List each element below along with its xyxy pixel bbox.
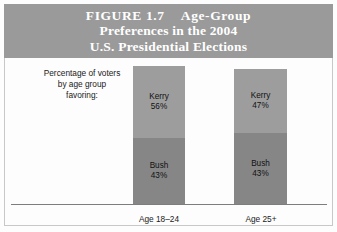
figure-title-banner: FIGURE 1.7 Age-Group Preferences in the … (4, 4, 333, 58)
figure-title-line-2: Preferences in the 2004 (100, 23, 238, 39)
figure-title-line-3: U.S. Presidential Elections (90, 39, 247, 55)
figure-title-line-1: FIGURE 1.7 Age-Group (86, 8, 251, 24)
figure-number: FIGURE 1.7 (86, 8, 165, 23)
figure-container: FIGURE 1.7 Age-Group Preferences in the … (0, 0, 337, 232)
caption-line-1: Percentage of voters (21, 68, 143, 79)
bar-segment-bush-25-plus: Bush 43% (234, 133, 287, 204)
chart-caption: Percentage of voters by age group favori… (21, 68, 143, 102)
segment-label-bush: Bush (150, 161, 169, 171)
x-axis-baseline (11, 204, 327, 205)
segment-value-kerry: 47% (252, 101, 268, 111)
bar-segment-bush-18-24: Bush 43% (133, 138, 185, 204)
bar-segment-kerry-18-24: Kerry 56% (133, 66, 185, 138)
segment-value-bush: 43% (151, 171, 167, 181)
plot-area: Percentage of voters by age group favori… (5, 58, 332, 226)
caption-line-3: favoring: (21, 90, 143, 101)
segment-label-kerry: Kerry (149, 92, 169, 102)
segment-value-bush: 43% (252, 169, 268, 179)
segment-label-kerry: Kerry (251, 91, 271, 101)
bar-age-25-plus: Kerry 47% Bush 43% (234, 69, 287, 204)
segment-label-bush: Bush (251, 159, 270, 169)
segment-value-kerry: 56% (151, 102, 167, 112)
x-axis-label-age-25-plus: Age 25+ (201, 214, 321, 224)
caption-line-2: by age group (21, 79, 143, 90)
bar-age-18-24: Kerry 56% Bush 43% (133, 66, 185, 204)
bar-segment-kerry-25-plus: Kerry 47% (234, 69, 287, 133)
figure-title-part-1: Age-Group (181, 8, 251, 23)
